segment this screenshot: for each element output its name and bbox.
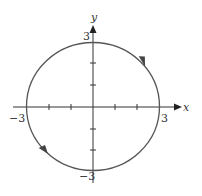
y-axis-arrow-icon bbox=[90, 25, 97, 33]
direction-arrow-icon bbox=[39, 145, 49, 156]
circle-diagram: y x 3 −3 −3 3 bbox=[0, 0, 202, 196]
y-min-label: −3 bbox=[79, 170, 95, 183]
x-min-label: −3 bbox=[9, 112, 25, 125]
x-axis-arrow-icon bbox=[174, 104, 182, 111]
y-max-label: 3 bbox=[83, 30, 90, 43]
direction-arrow-icon bbox=[137, 55, 147, 66]
x-max-label: 3 bbox=[161, 112, 168, 125]
x-axis-label: x bbox=[183, 101, 190, 114]
y-axis-label: y bbox=[90, 11, 98, 24]
